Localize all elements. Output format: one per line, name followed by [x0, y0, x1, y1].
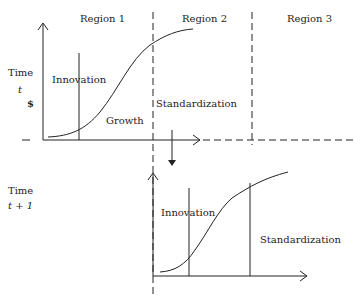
- bottom-innovation-label: Innovation: [161, 207, 216, 218]
- top-dollar-label: $: [27, 98, 34, 109]
- top-standardization-label: Standardization: [156, 98, 237, 109]
- top-innovation-label: Innovation: [52, 74, 107, 85]
- region-2-label: Region 2: [182, 13, 227, 24]
- bottom-time-label: Time: [8, 185, 33, 196]
- top-time-label: Time: [8, 67, 33, 78]
- region-1-label: Region 1: [80, 13, 125, 24]
- top-growth-label: Growth: [106, 115, 144, 126]
- bottom-standardization-label: Standardization: [260, 234, 341, 245]
- bottom-s-curve: [160, 172, 288, 272]
- product-life-cycle-diagram: Region 1 Region 2 Region 3 Time t $ Inno…: [0, 0, 354, 296]
- top-time-var: t: [18, 84, 23, 95]
- down-arrow-icon: [168, 160, 176, 166]
- bottom-time-var: t + 1: [8, 200, 33, 211]
- region-3-label: Region 3: [287, 13, 332, 24]
